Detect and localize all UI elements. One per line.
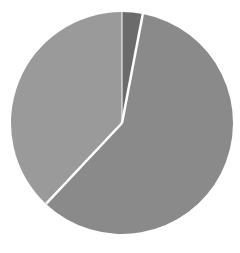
pie-chart-canvas bbox=[0, 0, 240, 253]
pie-chart bbox=[0, 0, 240, 253]
